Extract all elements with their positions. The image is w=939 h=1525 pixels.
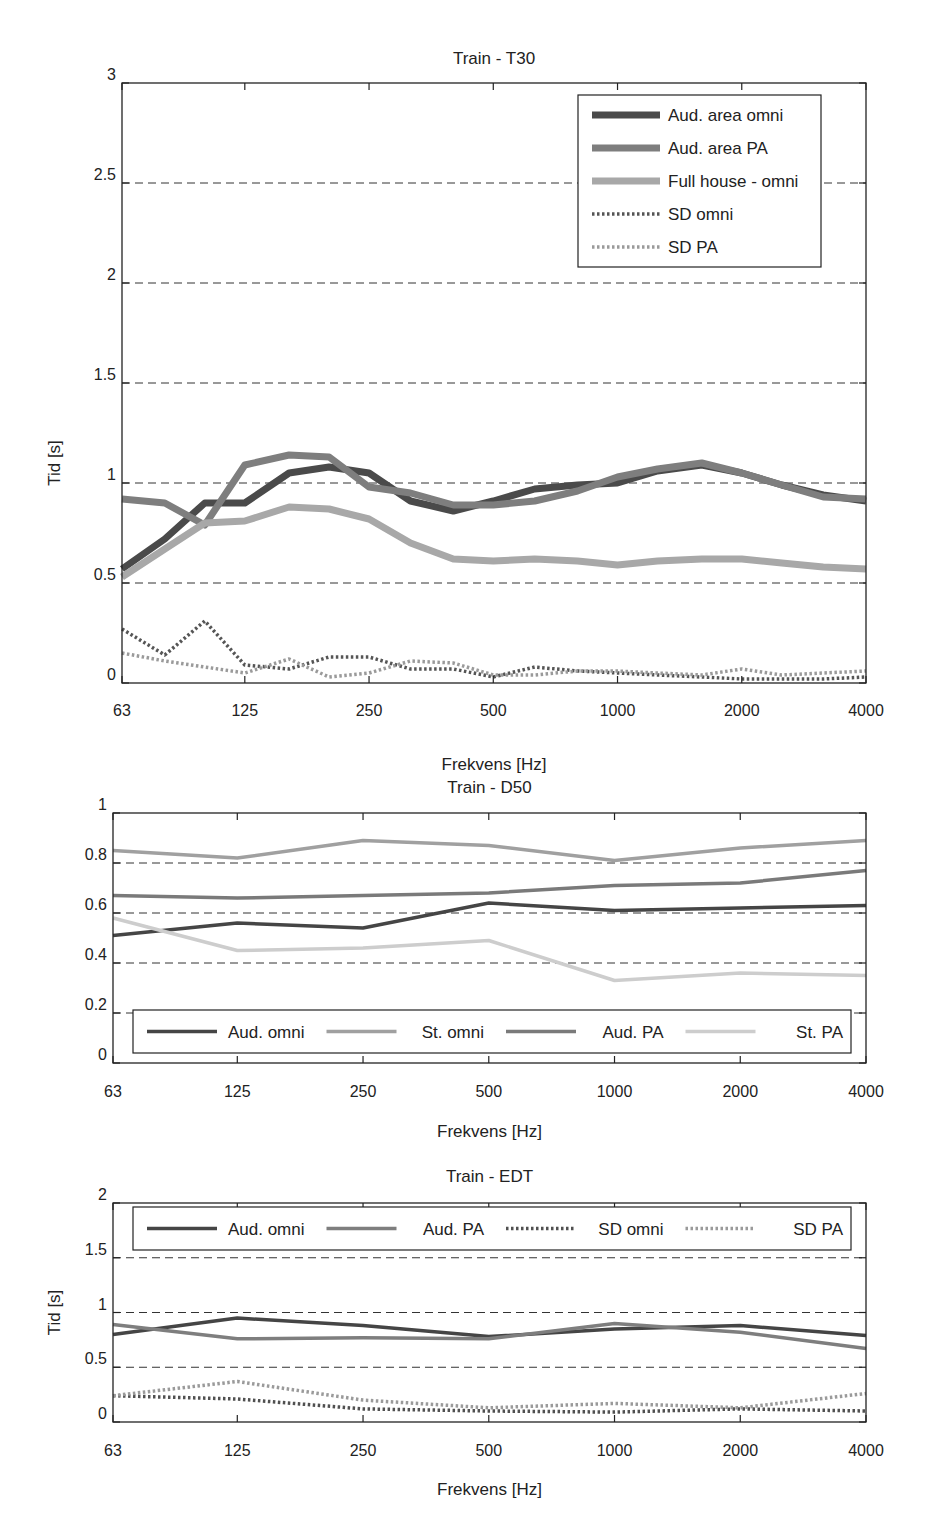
y-tick-label: 0.2 — [85, 996, 107, 1013]
x-tick-label: 500 — [475, 1083, 502, 1100]
legend: Aud. area omniAud. area PAFull house - o… — [578, 95, 821, 267]
x-tick-label: 1000 — [597, 1442, 633, 1459]
legend: Aud. omniSt. omniAud. PASt. PA — [133, 1010, 851, 1053]
x-tick-label: 2000 — [722, 1442, 758, 1459]
chart-title: Train - D50 — [447, 778, 531, 797]
x-tick-label: 500 — [475, 1442, 502, 1459]
legend-label: Aud. omni — [228, 1220, 305, 1239]
y-tick-label: 0.5 — [94, 566, 116, 583]
y-tick-label: 1.5 — [85, 1241, 107, 1258]
x-tick-label: 125 — [224, 1442, 251, 1459]
x-tick-label: 125 — [224, 1083, 251, 1100]
x-axis-label: Frekvens [Hz] — [442, 755, 547, 774]
y-tick-label: 2.5 — [94, 166, 116, 183]
y-tick-label: 2 — [98, 1186, 107, 1203]
legend-label: St. PA — [796, 1023, 844, 1042]
x-tick-label: 63 — [104, 1442, 122, 1459]
legend-label: St. omni — [422, 1023, 484, 1042]
y-tick-label: 2 — [107, 266, 116, 283]
x-tick-label: 250 — [356, 702, 383, 719]
x-tick-label: 2000 — [722, 1083, 758, 1100]
series-line-sd-omni — [122, 621, 866, 679]
y-tick-label: 0 — [107, 666, 116, 683]
figure-canvas: Train - T306312525050010002000400000.511… — [0, 0, 939, 1525]
x-axis-label: Frekvens [Hz] — [437, 1480, 542, 1499]
y-axis-label: Tid [s] — [45, 440, 64, 486]
legend-label: Aud. area omni — [668, 106, 783, 125]
series-line-sd-pa — [122, 653, 866, 677]
legend-label: Full house - omni — [668, 172, 798, 191]
x-tick-label: 63 — [113, 702, 131, 719]
y-tick-label: 0.8 — [85, 846, 107, 863]
x-tick-label: 500 — [480, 702, 507, 719]
x-tick-label: 4000 — [848, 1083, 884, 1100]
legend-label: SD omni — [668, 205, 733, 224]
legend: Aud. omniAud. PASD omniSD PA — [133, 1207, 851, 1250]
x-tick-label: 4000 — [848, 1442, 884, 1459]
legend-label: Aud. omni — [228, 1023, 305, 1042]
x-tick-label: 63 — [104, 1083, 122, 1100]
legend-label: Aud. PA — [602, 1023, 664, 1042]
y-tick-label: 1 — [98, 1296, 107, 1313]
y-tick-label: 1 — [98, 796, 107, 813]
chart-t30: Train - T306312525050010002000400000.511… — [45, 49, 884, 774]
y-axis-label: Tid [s] — [45, 1290, 64, 1336]
y-tick-label: 0.6 — [85, 896, 107, 913]
series-line-st-omni — [113, 841, 866, 861]
series-line-sd-pa — [113, 1382, 866, 1408]
x-tick-label: 1000 — [600, 702, 636, 719]
chart-title: Train - T30 — [453, 49, 535, 68]
y-tick-label: 0 — [98, 1405, 107, 1422]
chart-d50: Train - D506312525050010002000400000.20.… — [85, 778, 884, 1141]
legend-label: SD PA — [793, 1220, 843, 1239]
y-tick-label: 0.5 — [85, 1350, 107, 1367]
y-tick-label: 1 — [107, 466, 116, 483]
series-line-aud-area-pa — [122, 455, 866, 525]
x-tick-label: 250 — [350, 1442, 377, 1459]
y-tick-label: 0.4 — [85, 946, 107, 963]
y-tick-label: 1.5 — [94, 366, 116, 383]
legend-label: SD PA — [668, 238, 718, 257]
x-tick-label: 250 — [350, 1083, 377, 1100]
x-axis-label: Frekvens [Hz] — [437, 1122, 542, 1141]
series-line-full-house-omni — [122, 507, 866, 577]
series-line-st-pa — [113, 918, 866, 981]
x-tick-label: 4000 — [848, 702, 884, 719]
x-tick-label: 1000 — [597, 1083, 633, 1100]
y-tick-label: 3 — [107, 66, 116, 83]
series-line-aud-omni — [113, 903, 866, 936]
legend-label: SD omni — [598, 1220, 663, 1239]
legend-label: Aud. PA — [423, 1220, 485, 1239]
series-line-aud-pa — [113, 871, 866, 899]
x-tick-label: 125 — [231, 702, 258, 719]
y-tick-label: 0 — [98, 1046, 107, 1063]
chart-title: Train - EDT — [446, 1167, 533, 1186]
x-tick-label: 2000 — [724, 702, 760, 719]
chart-edt: Train - EDT6312525050010002000400000.511… — [45, 1167, 884, 1499]
series-line-sd-omni — [113, 1396, 866, 1412]
legend-label: Aud. area PA — [668, 139, 769, 158]
